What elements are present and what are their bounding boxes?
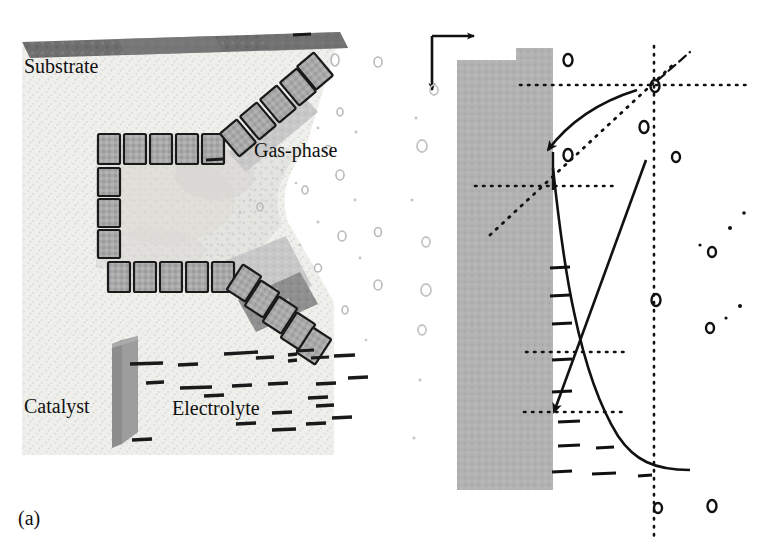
figure-root: Substrate Gas-phase Catalyst Electrolyte… [0, 0, 759, 552]
gas-bubbles-b [564, 54, 717, 513]
catalyst-block-b [457, 48, 553, 490]
substrate-label: Substrate [24, 56, 98, 76]
particle-row-top [98, 134, 224, 164]
electrolyte-meniscus-curve [553, 168, 690, 470]
gas-speck-dots-faint [410, 116, 421, 439]
panel-b-graphic [400, 0, 759, 552]
electrolyte-ions-b [550, 267, 652, 476]
panel-b: y x x = 0 θ ro δ Catalyst Gas Electrolyt… [400, 0, 759, 552]
panel-a-caption: (a) [18, 508, 40, 528]
particle-column-left [98, 168, 120, 258]
catalyst-block-a [112, 336, 138, 448]
catalyst-label-a: Catalyst [24, 396, 90, 416]
particle-row-bottom [108, 262, 234, 292]
panel-a: Substrate Gas-phase Catalyst Electrolyte… [0, 0, 400, 552]
gas-speck-dots [698, 211, 745, 319]
gas-faint-voids [417, 85, 438, 335]
theta-arrow [548, 90, 637, 150]
panel-a-graphic [0, 0, 400, 552]
gas-phase-label: Gas-phase [254, 140, 337, 160]
electrolyte-label-a: Electrolyte [172, 398, 260, 418]
